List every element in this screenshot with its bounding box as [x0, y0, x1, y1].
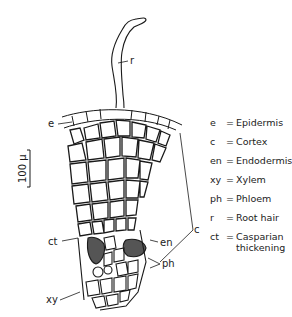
legend-abbr: ct [210, 231, 226, 250]
cortex-cells [68, 120, 170, 236]
legend-eq: = [226, 193, 236, 212]
xylem-vessel-2 [104, 266, 112, 274]
leader-e [58, 122, 72, 124]
label-e: e [48, 119, 54, 129]
xylem-vessel-1 [93, 267, 103, 277]
legend-item: ph = Phloem [210, 193, 292, 212]
legend-abbr: ph [210, 193, 226, 212]
label-c: c [194, 225, 200, 235]
legend: e = Epidermis c = Cortex en = Endodermis… [210, 117, 292, 250]
leader-en [150, 240, 158, 242]
legend-def: Cortex [236, 136, 267, 155]
label-ph: ph [162, 259, 175, 269]
label-ct: ct [48, 237, 57, 247]
legend-def: Phloem [236, 193, 271, 212]
scale-bar-label: 100 μ [17, 154, 28, 183]
legend-item: en = Endodermis [210, 155, 292, 174]
legend-abbr: r [210, 212, 226, 231]
legend-abbr: e [210, 117, 226, 136]
legend-abbr: en [210, 155, 226, 174]
leader-r [118, 61, 128, 63]
legend-def: Casparian thickening [236, 231, 285, 250]
legend-item: c = Cortex [210, 136, 292, 155]
leader-ct [62, 238, 78, 241]
label-xy: xy [46, 295, 58, 305]
root-hair [112, 18, 146, 108]
legend-eq: = [226, 136, 236, 155]
leader-ph-2 [150, 264, 160, 268]
leader-xy [60, 292, 80, 300]
legend-eq: = [226, 155, 236, 174]
legend-def: Epidermis [236, 117, 283, 136]
label-en: en [160, 238, 173, 248]
phloem-left [87, 237, 104, 264]
legend-abbr: xy [210, 174, 226, 193]
legend-def: Xylem [236, 174, 266, 193]
legend-item: e = Epidermis [210, 117, 292, 136]
label-r: r [130, 56, 134, 66]
epidermis-outer [62, 110, 182, 125]
legend-item: r = Root hair [210, 212, 292, 231]
legend-def: Endodermis [236, 155, 292, 174]
legend-item: xy = Xylem [210, 174, 292, 193]
legend-def: Root hair [236, 212, 279, 231]
leader-ph-1 [148, 258, 160, 264]
leader-c-upper [180, 133, 193, 230]
stele [78, 230, 146, 310]
legend-eq: = [226, 117, 236, 136]
legend-eq: = [226, 231, 236, 250]
legend-abbr: c [210, 136, 226, 155]
legend-item: ct = Casparian thickening [210, 231, 292, 250]
legend-eq: = [226, 174, 236, 193]
legend-eq: = [226, 212, 236, 231]
